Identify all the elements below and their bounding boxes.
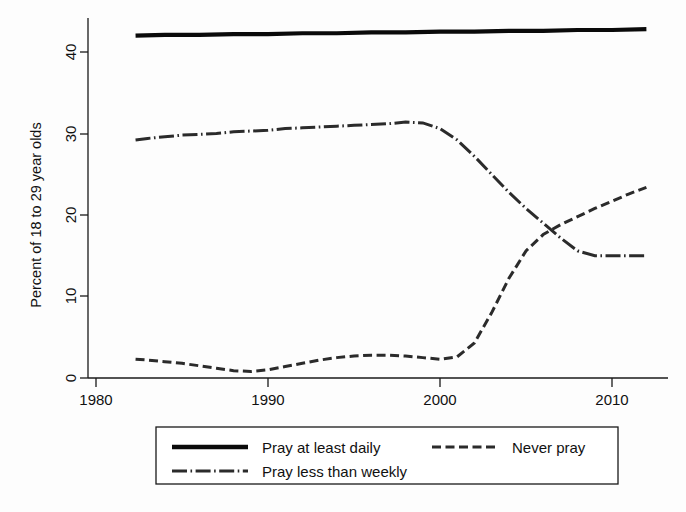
line-chart: 0 10 20 30 40 Percent of 18 to 29 year o… — [0, 0, 686, 512]
y-ticklabel-40: 40 — [62, 44, 79, 61]
legend-label-pray-less-than-weekly: Pray less than weekly — [262, 463, 408, 480]
x-ticklabel-1980: 1980 — [79, 391, 112, 408]
legend-label-never-pray: Never pray — [512, 439, 586, 456]
figure-canvas: 0 10 20 30 40 Percent of 18 to 29 year o… — [0, 0, 686, 512]
legend: Pray at least daily Never pray Pray less… — [156, 427, 618, 484]
x-ticklabel-2010: 2010 — [595, 391, 628, 408]
y-ticklabel-0: 0 — [62, 374, 79, 382]
legend-label-pray-at-least-daily: Pray at least daily — [262, 439, 381, 456]
y-axis-label: Percent of 18 to 29 year olds — [28, 122, 44, 307]
chart-page: 0 10 20 30 40 Percent of 18 to 29 year o… — [0, 0, 686, 512]
y-ticklabel-30: 30 — [62, 126, 79, 143]
x-ticklabel-2000: 2000 — [423, 391, 456, 408]
y-ticklabel-20: 20 — [62, 207, 79, 224]
x-ticklabel-1990: 1990 — [251, 391, 284, 408]
y-ticklabel-10: 10 — [62, 288, 79, 305]
